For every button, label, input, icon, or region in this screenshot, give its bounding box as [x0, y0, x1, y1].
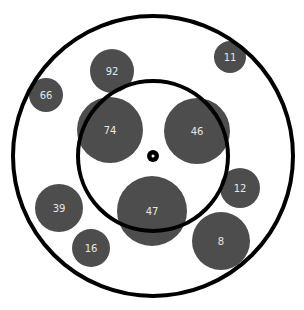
ring-bubble-diagram: 9211667446123947168 — [0, 0, 304, 310]
center-dot-core — [152, 155, 155, 158]
bubbles-layer — [29, 41, 260, 270]
bubble-label: 66 — [40, 90, 53, 101]
bubble-label: 16 — [85, 243, 98, 254]
bubble-label: 11 — [224, 52, 237, 63]
bubble-label: 92 — [106, 66, 119, 77]
bubble-label: 46 — [191, 126, 204, 137]
bubble-label: 8 — [218, 236, 224, 247]
rings-layer — [13, 16, 293, 296]
bubble-label: 39 — [53, 203, 66, 214]
bubble-label: 12 — [234, 183, 247, 194]
bubble-label: 47 — [146, 206, 159, 217]
diagram-canvas: 9211667446123947168 — [0, 0, 304, 310]
bubble-label: 74 — [104, 125, 117, 136]
